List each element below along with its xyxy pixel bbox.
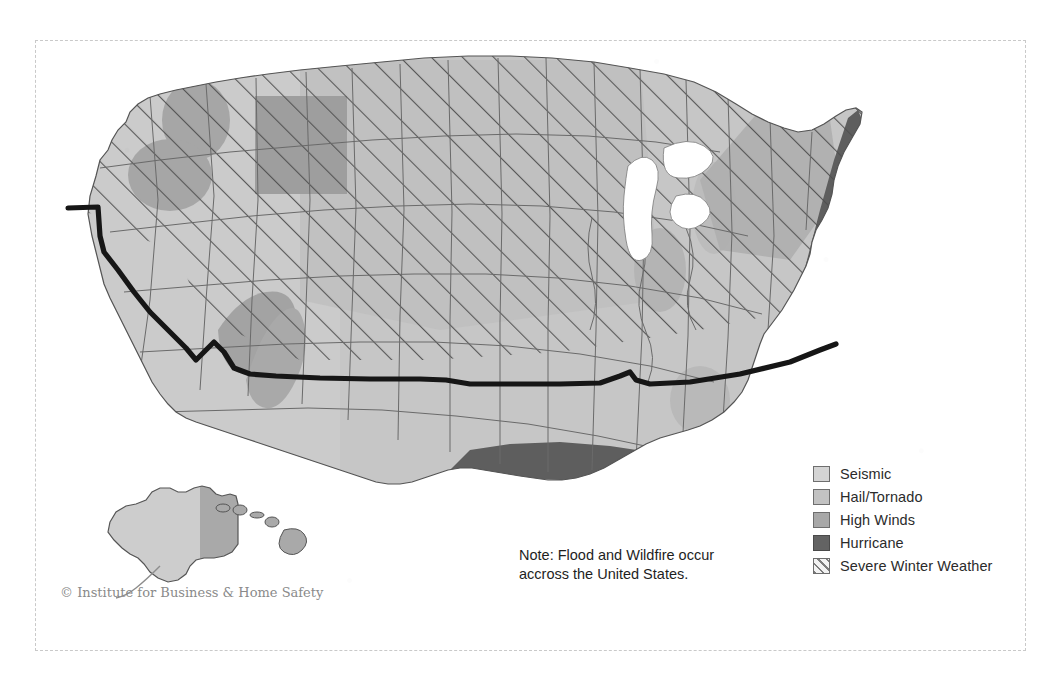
legend-item-high-winds[interactable]: High Winds — [813, 508, 993, 531]
legend-label-seismic: Seismic — [840, 466, 891, 482]
legend-label-severe-winter-weather: Severe Winter Weather — [840, 558, 993, 574]
map-note: Note: Flood and Wildfire occur accross t… — [519, 546, 714, 584]
copyright-credit: © Institute for Business & Home Safety — [60, 585, 323, 600]
alaska-seismic-fill — [100, 480, 200, 590]
legend-swatch-hail-tornado-icon — [813, 489, 830, 505]
legend-item-severe-winter-weather[interactable]: Severe Winter Weather — [813, 554, 993, 577]
legend-item-hurricane[interactable]: Hurricane — [813, 531, 993, 554]
legend-swatch-seismic-icon — [813, 466, 830, 482]
hawaii-island-maui — [265, 517, 279, 527]
legend-label-hail-tornado: Hail/Tornado — [840, 489, 923, 505]
map-legend: Seismic Hail/Tornado High Winds Hurrican… — [813, 462, 993, 577]
region-contiguous-united-states — [60, 40, 890, 510]
legend-swatch-hurricane-icon — [813, 535, 830, 551]
legend-item-hail-tornado[interactable]: Hail/Tornado — [813, 485, 993, 508]
hawaii-island-big-island — [279, 529, 307, 555]
legend-label-hurricane: Hurricane — [840, 535, 904, 551]
region-alaska — [100, 480, 260, 598]
legend-swatch-severe-winter-weather-icon — [813, 558, 830, 574]
hawaii-island-molokai — [250, 512, 264, 518]
legend-label-high-winds: High Winds — [840, 512, 915, 528]
legend-swatch-high-winds-icon — [813, 512, 830, 528]
hawaii-island-oahu — [233, 505, 247, 515]
alaska-high-winds-fill — [200, 480, 260, 590]
hawaii-island-kauai — [216, 504, 230, 512]
hazard-map-page: Note: Flood and Wildfire occur accross t… — [0, 0, 1059, 683]
legend-item-seismic[interactable]: Seismic — [813, 462, 993, 485]
